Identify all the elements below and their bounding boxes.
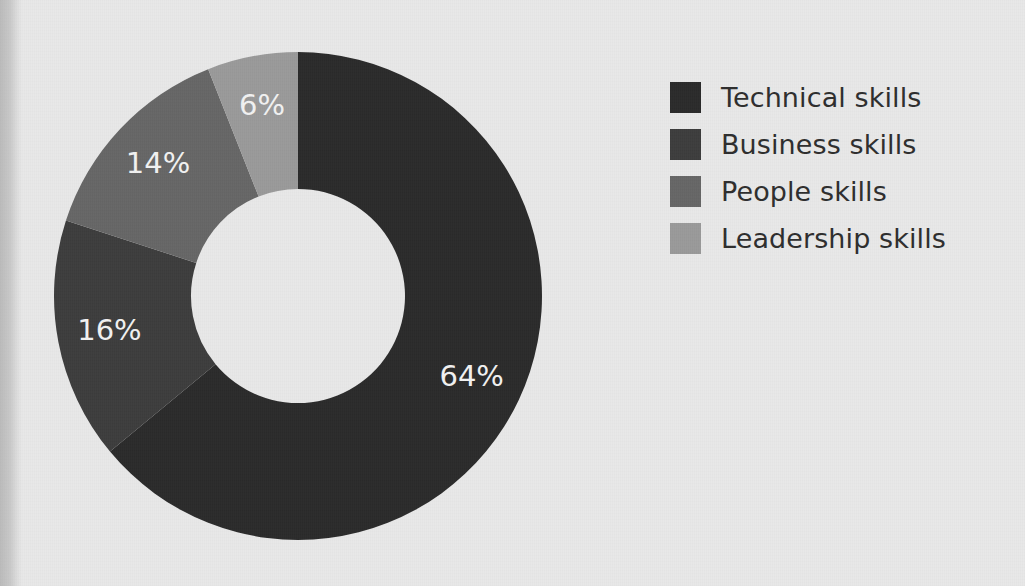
legend-color-swatch bbox=[670, 176, 701, 207]
donut-slice-label: 14% bbox=[126, 146, 190, 180]
donut-slice-label: 64% bbox=[439, 359, 503, 393]
legend-item[interactable]: People skills bbox=[670, 168, 1010, 215]
page-root: 64%16%14%6% Technical skillsBusiness ski… bbox=[0, 0, 1025, 586]
donut-chart: 64%16%14%6% bbox=[0, 0, 600, 586]
donut-slices bbox=[54, 52, 542, 540]
donut-slice-label: 6% bbox=[239, 88, 285, 122]
legend-color-swatch bbox=[670, 223, 701, 254]
legend-item[interactable]: Business skills bbox=[670, 121, 1010, 168]
legend-color-swatch bbox=[670, 82, 701, 113]
donut-slice-label: 16% bbox=[77, 313, 141, 347]
legend-item-label: Business skills bbox=[721, 129, 916, 160]
legend-color-swatch bbox=[670, 129, 701, 160]
donut-chart-svg: 64%16%14%6% bbox=[0, 0, 600, 586]
legend-item[interactable]: Technical skills bbox=[670, 74, 1010, 121]
legend-item-label: Leadership skills bbox=[721, 223, 946, 254]
legend-item[interactable]: Leadership skills bbox=[670, 215, 1010, 262]
legend-item-label: People skills bbox=[721, 176, 887, 207]
legend-item-label: Technical skills bbox=[721, 82, 921, 113]
chart-legend: Technical skillsBusiness skillsPeople sk… bbox=[670, 74, 1010, 262]
